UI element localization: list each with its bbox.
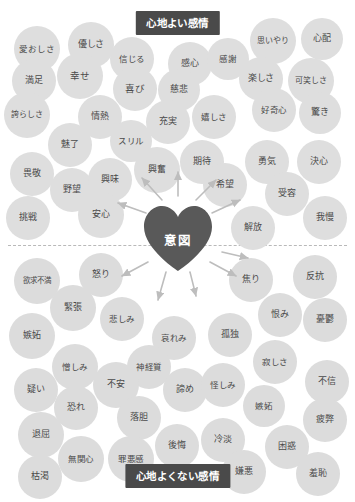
emotion-bubble[interactable]: 焦り	[229, 258, 273, 302]
emotion-bubble[interactable]: 疲弊	[303, 398, 347, 442]
emotion-bubble[interactable]: 興奮	[134, 147, 180, 193]
emotion-bubble[interactable]: 怪しみ	[201, 363, 245, 407]
emotion-bubble[interactable]: 疑い	[14, 368, 58, 412]
emotion-bubble[interactable]: 我慢	[303, 196, 347, 240]
emotion-bubble[interactable]: 恨み	[258, 293, 302, 337]
emotion-bubble[interactable]: 無関心	[58, 436, 104, 482]
emotion-bubble[interactable]: 諦め	[163, 368, 207, 412]
emotion-bubble[interactable]: 希望	[203, 163, 247, 207]
center-heart: 意図	[141, 203, 215, 273]
emotion-bubble[interactable]: 退屈	[18, 412, 64, 458]
center-heart-label: 意図	[141, 203, 215, 273]
emotion-bubble[interactable]: 羞恥	[296, 452, 340, 496]
emotion-bubble[interactable]: 寂しさ	[253, 340, 297, 384]
emotion-bubble[interactable]: 憎しみ	[52, 344, 98, 390]
pleasant-emotions-band: 心地よい感情	[135, 11, 219, 35]
emotion-bubble[interactable]: 魅了	[48, 123, 92, 167]
emotion-bubble[interactable]: 決心	[297, 140, 341, 184]
emotion-bubble[interactable]: 枯渇	[18, 455, 62, 499]
emotion-bubble[interactable]: 嫉妬	[243, 385, 285, 427]
emotion-bubble[interactable]: 驚き	[299, 92, 341, 134]
emotion-bubble[interactable]: 畏敬	[10, 152, 54, 196]
emotion-diagram: 心地よい感情 心地よくない感情 意図 愛おしさ優しさ信じる感心感謝思いやり心配満…	[0, 0, 355, 502]
emotion-bubble[interactable]: 挑戦	[6, 196, 50, 240]
emotion-bubble[interactable]: 孤独	[208, 313, 252, 357]
emotion-bubble[interactable]: 心配	[301, 18, 343, 60]
emotion-bubble[interactable]: 悲しみ	[100, 297, 144, 341]
emotion-bubble[interactable]: 喜び	[113, 67, 157, 111]
emotion-bubble[interactable]: 解放	[231, 206, 275, 250]
emotion-bubble[interactable]: 反抗	[293, 255, 337, 299]
emotion-bubble[interactable]: 後悔	[155, 424, 199, 468]
emotion-bubble[interactable]: 誇らしさ	[4, 92, 50, 138]
emotion-bubble[interactable]: 嬉しさ	[192, 95, 236, 139]
emotion-bubble[interactable]: 緊張	[50, 285, 96, 331]
emotion-bubble[interactable]: 憂鬱	[303, 298, 347, 342]
unpleasant-emotions-band: 心地よくない感情	[125, 464, 230, 488]
emotion-bubble[interactable]: 好奇心	[252, 88, 296, 132]
emotion-bubble[interactable]: 安心	[78, 192, 124, 238]
emotion-bubble[interactable]: 幸せ	[57, 53, 103, 99]
emotion-bubble[interactable]: 受容	[265, 172, 309, 216]
emotion-bubble[interactable]: 嫉妬	[9, 313, 55, 359]
emotion-bubble[interactable]: 落胆	[117, 396, 161, 440]
emotion-bubble[interactable]: 充実	[146, 100, 190, 144]
